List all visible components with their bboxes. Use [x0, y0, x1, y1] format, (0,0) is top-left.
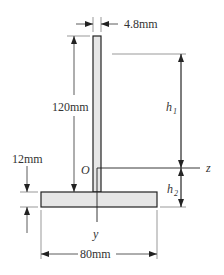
centroid-distance-dimensions: h 1 h 2 — [112, 54, 186, 207]
h1-subscript: 1 — [173, 107, 177, 116]
flange-width-dimension: 80mm — [41, 210, 157, 261]
flange — [41, 192, 157, 207]
web-thickness-dimension: 4.8mm — [76, 17, 158, 32]
origin-label: O — [81, 163, 90, 177]
y-axis-label: y — [92, 227, 99, 241]
z-axis-label: z — [205, 161, 211, 175]
flange-width-label: 80mm — [80, 247, 111, 261]
h1-label: h — [166, 100, 172, 114]
flange-thickness-dimension: 12mm — [12, 152, 43, 233]
web-thickness-label: 4.8mm — [124, 17, 158, 31]
web-height-label: 120mm — [52, 100, 89, 114]
h2-label: h — [167, 182, 173, 196]
h2-subscript: 2 — [174, 189, 178, 198]
flange-thickness-label: 12mm — [12, 152, 43, 166]
t-section-diagram: 4.8mm 120mm 12mm 80mm h 1 h 2 — [0, 0, 224, 275]
